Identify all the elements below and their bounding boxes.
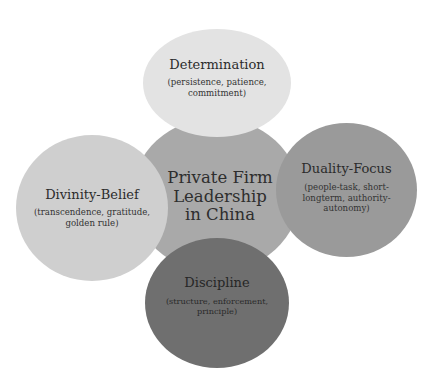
determination-circle: Determination (persistence, patience, co… <box>143 29 291 137</box>
discipline-title: Discipline <box>184 276 249 291</box>
duality-focus-circle: Duality-Focus (people-task, short-longte… <box>276 123 417 257</box>
determination-title: Determination <box>169 58 264 73</box>
duality-focus-title: Duality-Focus <box>301 162 391 177</box>
leadership-diagram: Private Firm Leadership in China Determi… <box>0 0 430 388</box>
discipline-subtitle: (structure, enforcement, principle) <box>162 296 272 316</box>
discipline-circle: Discipline (structure, enforcement, prin… <box>145 238 289 368</box>
divinity-belief-circle: Divinity-Belief (transcendence, gratitud… <box>16 135 168 281</box>
determination-subtitle: (persistence, patience, commitment) <box>162 77 272 98</box>
duality-focus-subtitle: (people-task, short-longterm, authority-… <box>299 182 395 213</box>
divinity-belief-title: Divinity-Belief <box>45 188 139 203</box>
center-title: Private Firm Leadership in China <box>165 169 275 225</box>
divinity-belief-subtitle: (transcendence, gratitude, golden rule) <box>32 207 152 228</box>
